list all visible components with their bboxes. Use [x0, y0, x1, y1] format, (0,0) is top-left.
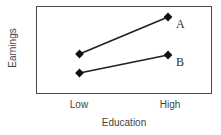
- series-a-marker-low: [75, 50, 84, 59]
- x-tick-label-high: High: [149, 99, 191, 111]
- series-label-a: A: [176, 18, 185, 30]
- series-label-b: B: [176, 56, 184, 68]
- series-a-marker-high: [164, 13, 173, 22]
- x-tick-label-low: Low: [58, 99, 100, 111]
- series-b-line: [80, 55, 169, 73]
- series-a-line: [80, 17, 169, 54]
- earnings-education-chart: Earnings A B Low High Education: [0, 0, 221, 135]
- x-axis-label: Education: [36, 117, 212, 129]
- y-axis-label: Earnings: [6, 0, 20, 96]
- series-b-marker-high: [164, 51, 173, 60]
- plot-svg: [36, 6, 212, 94]
- series-b-marker-low: [75, 69, 84, 78]
